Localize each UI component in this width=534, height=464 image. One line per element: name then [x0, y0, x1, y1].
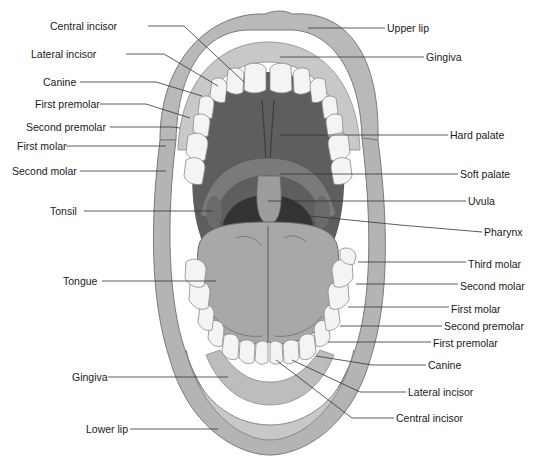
label-soft-palate: Soft palate [460, 168, 510, 180]
label-lateral-incisor-lower: Lateral incisor [408, 386, 473, 398]
label-third-molar-lower: Third molar [468, 258, 521, 270]
label-second-premolar-upper: Second premolar [26, 121, 106, 133]
label-central-incisor-upper: Central incisor [50, 20, 117, 32]
label-second-premolar-lower: Second premolar [444, 320, 524, 332]
label-gingiva-lower: Gingiva [72, 371, 108, 383]
label-canine-lower: Canine [428, 359, 461, 371]
left-tonsil [206, 196, 222, 228]
label-gingiva-upper: Gingiva [426, 51, 462, 63]
label-first-molar-upper: First molar [17, 140, 67, 152]
label-hard-palate: Hard palate [450, 129, 504, 141]
label-uvula: Uvula [468, 195, 495, 207]
label-pharynx: Pharynx [484, 226, 523, 238]
label-first-premolar-upper: First premolar [35, 98, 100, 110]
label-tongue: Tongue [63, 275, 97, 287]
label-tonsil: Tonsil [50, 205, 77, 217]
label-first-molar-lower: First molar [451, 303, 501, 315]
label-first-premolar-lower: First premolar [433, 337, 498, 349]
label-second-molar-upper: Second molar [12, 165, 77, 177]
label-central-incisor-lower: Central incisor [396, 412, 463, 424]
label-upper-lip: Upper lip [387, 22, 429, 34]
label-lateral-incisor-upper: Lateral incisor [31, 48, 96, 60]
label-second-molar-lower: Second molar [460, 280, 525, 292]
label-lower-lip: Lower lip [86, 423, 128, 435]
uvula [257, 176, 281, 223]
label-canine-upper: Canine [43, 76, 76, 88]
